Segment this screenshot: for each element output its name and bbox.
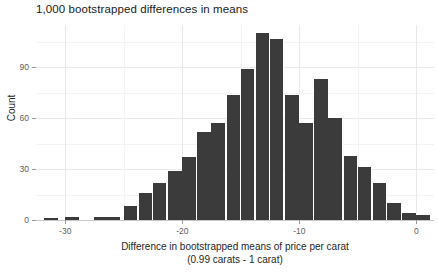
chart-figure: 1,000 bootstrapped differences in means … bbox=[0, 0, 438, 278]
histogram-bar bbox=[358, 167, 373, 220]
histogram-bar bbox=[182, 157, 197, 220]
histogram-bar bbox=[387, 203, 402, 220]
x-tick bbox=[416, 220, 417, 224]
histogram-bar bbox=[328, 118, 343, 220]
histogram-bar bbox=[124, 206, 139, 220]
x-tick bbox=[182, 220, 183, 224]
x-axis-line bbox=[36, 220, 434, 221]
x-tick-label: -10 bbox=[293, 226, 305, 236]
bar-series bbox=[36, 25, 434, 220]
x-axis-title-line1: Difference in bootstrapped means of pric… bbox=[36, 240, 434, 253]
histogram-bar bbox=[241, 69, 256, 220]
y-tick-label: 0 bbox=[24, 215, 29, 225]
x-axis-title: Difference in bootstrapped means of pric… bbox=[36, 240, 434, 266]
y-tick bbox=[32, 220, 36, 221]
histogram-bar bbox=[373, 183, 388, 220]
y-tick-label: 30 bbox=[20, 164, 29, 174]
x-tick bbox=[65, 220, 66, 224]
histogram-bar bbox=[299, 123, 314, 220]
histogram-bar bbox=[197, 132, 212, 220]
y-tick bbox=[32, 67, 36, 68]
histogram-bar bbox=[314, 79, 329, 220]
x-tick-label: -20 bbox=[176, 226, 188, 236]
histogram-bar bbox=[168, 171, 183, 220]
y-tick-label: 90 bbox=[20, 62, 29, 72]
y-tick-label: 60 bbox=[20, 113, 29, 123]
histogram-bar bbox=[139, 193, 154, 220]
histogram-bar bbox=[344, 156, 359, 220]
y-tick bbox=[32, 118, 36, 119]
x-tick-label: 0 bbox=[414, 226, 419, 236]
x-tick bbox=[299, 220, 300, 224]
y-axis-title: Count bbox=[6, 78, 17, 138]
histogram-bar bbox=[211, 123, 226, 220]
histogram-bar bbox=[227, 95, 242, 220]
x-axis-title-line2: (0.99 carats - 1 carat) bbox=[36, 253, 434, 266]
chart-title: 1,000 bootstrapped differences in means bbox=[36, 3, 248, 15]
histogram-bar bbox=[270, 39, 285, 220]
histogram-bar bbox=[153, 183, 168, 220]
histogram-bar bbox=[256, 33, 271, 220]
y-tick bbox=[32, 169, 36, 170]
x-tick-label: -30 bbox=[59, 226, 71, 236]
histogram-bar bbox=[285, 95, 300, 220]
histogram-bar bbox=[402, 213, 417, 220]
plot-area bbox=[36, 25, 434, 220]
